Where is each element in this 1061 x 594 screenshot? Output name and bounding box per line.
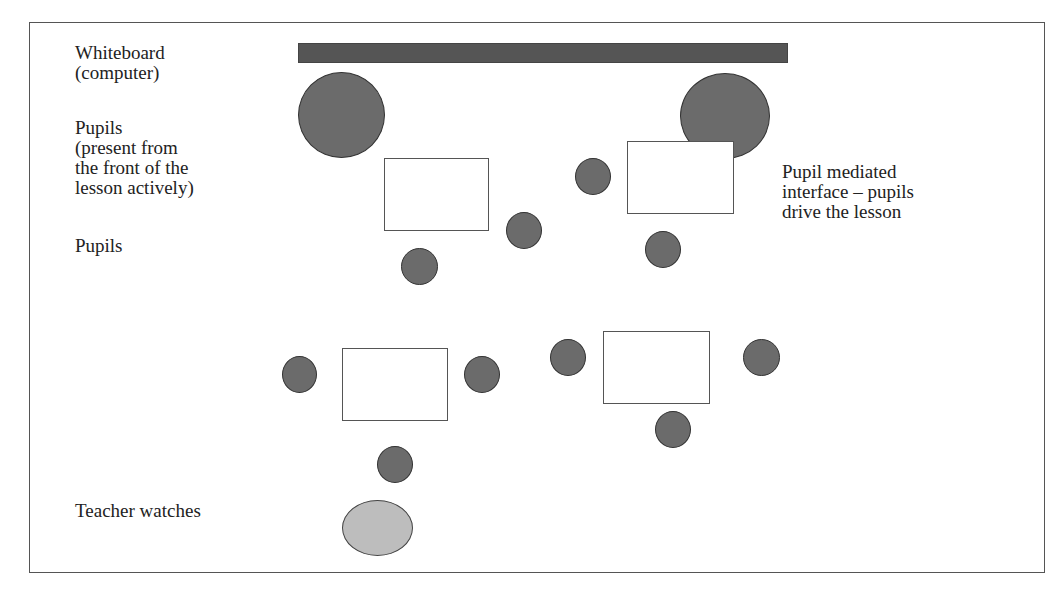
pupil — [743, 339, 780, 376]
pupil — [282, 356, 317, 393]
pupil — [645, 231, 681, 268]
pupil — [575, 158, 611, 195]
whiteboard-bar — [298, 43, 788, 63]
whiteboard-label: Whiteboard (computer) — [75, 43, 165, 83]
table-bottom-left — [342, 348, 448, 421]
pupil — [655, 411, 691, 448]
table-top-left — [384, 158, 489, 231]
teacher-label: Teacher watches — [75, 501, 201, 521]
interface-label: Pupil mediated interface – pupils drive … — [782, 162, 914, 222]
table-top-right — [627, 141, 734, 214]
pupil — [377, 446, 413, 483]
pupil — [506, 212, 542, 249]
pupil — [550, 339, 586, 376]
diagram-frame — [29, 22, 1045, 573]
pupils-label: Pupils — [75, 236, 123, 256]
front-pupil-left — [298, 72, 385, 158]
teacher-ellipse — [342, 500, 413, 556]
pupil — [464, 356, 500, 393]
pupil — [401, 248, 438, 285]
table-bottom-right — [603, 331, 710, 404]
pupils-front-label: Pupils (present from the front of the le… — [75, 118, 194, 198]
